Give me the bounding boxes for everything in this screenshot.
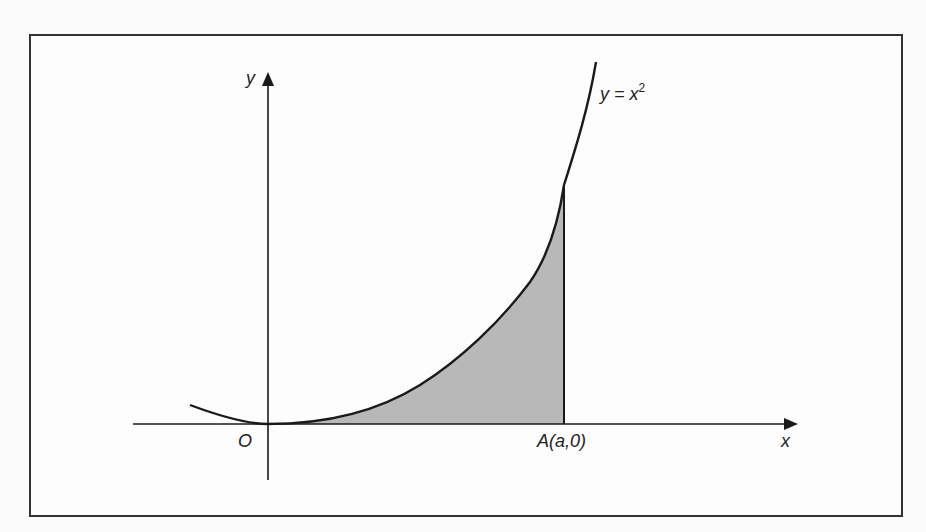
point-a-label: A(a,0) <box>536 431 586 451</box>
origin-label: O <box>238 431 252 451</box>
y-axis-label: y <box>244 68 256 88</box>
curve-label: y = x2 <box>598 81 646 104</box>
x-axis-label: x <box>780 431 791 451</box>
diagram-canvas: y x O A(a,0) y = x2 <box>0 0 926 532</box>
figure-frame <box>30 35 902 516</box>
